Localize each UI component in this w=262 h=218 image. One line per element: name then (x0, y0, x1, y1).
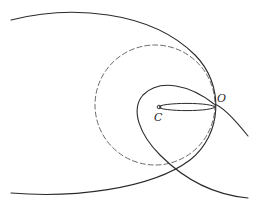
label-o: O (217, 92, 226, 105)
thin-ellipse (159, 103, 215, 110)
inner-loop-curve (137, 85, 248, 198)
label-c: C (154, 111, 163, 124)
dashed-circle (95, 45, 215, 165)
orbit-diagram: C O (0, 0, 262, 218)
